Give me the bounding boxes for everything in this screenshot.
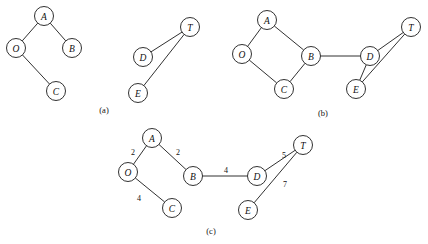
graph-node: E [347, 80, 366, 99]
node-label: D [366, 52, 374, 62]
caption-b: (b) [318, 108, 328, 118]
graph-node: T [181, 18, 200, 37]
graph-edge [249, 60, 276, 83]
node-label: C [169, 204, 176, 214]
graph-edge [133, 146, 146, 164]
graph-edge [151, 32, 182, 52]
graph-node: A [143, 129, 162, 148]
graph-node: E [129, 84, 148, 103]
graph-edge [274, 26, 303, 50]
node-label: E [134, 89, 141, 99]
graph-edge [159, 144, 186, 169]
edge-weight-label: 2 [176, 148, 180, 157]
node-label: O [125, 168, 132, 178]
graph-node: A [35, 7, 54, 26]
node-label: A [40, 12, 47, 22]
graph-node: T [402, 18, 421, 37]
graph-node: O [119, 163, 138, 182]
graph-node: B [63, 39, 82, 58]
edge-weight-label: 2 [131, 148, 135, 157]
graph-node: T [294, 136, 313, 155]
edge-weight-label: 5 [282, 151, 286, 160]
graph-figure: AOBCDTEAOBCDTEAOBCDTE 224457 (a)(b)(c) [0, 0, 428, 244]
node-label: T [408, 23, 414, 33]
node-label: D [253, 172, 261, 182]
graph-edge [265, 150, 295, 170]
node-label: A [148, 134, 155, 144]
graph-node: E [239, 201, 258, 220]
graph-node: B [302, 47, 321, 66]
edge-weight-label: 4 [137, 194, 141, 203]
node-label: O [13, 44, 20, 54]
node-label: B [190, 172, 196, 182]
nodes-layer: AOBCDTEAOBCDTEAOBCDTE [7, 7, 421, 220]
graph-node: C [163, 199, 182, 218]
edge-weight-label: 7 [283, 180, 287, 189]
graph-node: D [248, 167, 267, 186]
caption-c: (c) [206, 226, 216, 236]
edge-weight-label: 4 [224, 166, 228, 175]
graph-node: D [134, 48, 153, 67]
graph-node: C [47, 82, 66, 101]
node-label: T [187, 23, 193, 33]
graph-edge [22, 55, 49, 84]
graph-node: O [233, 45, 252, 64]
node-label: O [239, 50, 246, 60]
graph-edge [22, 23, 37, 41]
node-label: C [281, 85, 288, 95]
graph-node: B [184, 167, 203, 186]
graph-edge [248, 28, 262, 47]
node-label: E [352, 85, 359, 95]
node-label: A [263, 16, 270, 26]
node-label: B [69, 44, 75, 54]
graph-node: O [7, 39, 26, 58]
graph-edge [378, 32, 403, 50]
graph-canvas: AOBCDTEAOBCDTEAOBCDTE 224457 (a)(b)(c) [0, 0, 428, 244]
node-label: T [300, 141, 306, 151]
node-label: C [53, 87, 60, 97]
caption-a: (a) [99, 105, 109, 115]
node-label: E [244, 206, 251, 216]
graph-node: A [258, 11, 277, 30]
node-label: D [139, 53, 147, 63]
node-label: B [308, 52, 314, 62]
graph-node: D [361, 47, 380, 66]
graph-node: C [275, 80, 294, 99]
graph-edge [50, 23, 65, 41]
graph-edge [290, 63, 305, 81]
